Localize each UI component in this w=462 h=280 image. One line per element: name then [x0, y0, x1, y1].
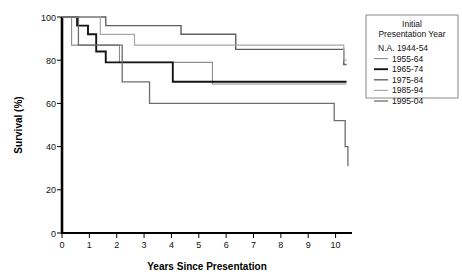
y-tick-label: 100 [41, 13, 56, 23]
x-tick-label: 8 [278, 240, 283, 250]
legend-label-N.A. 1944-54: N.A. 1944-54 [378, 43, 428, 53]
x-tick-label: 0 [59, 240, 64, 250]
km-survival-chart-figure: 020406080100 012345678910 Survival (%) Y… [0, 0, 462, 280]
x-tick-label: 1 [87, 240, 92, 250]
legend-title-line2: Presentation Year [378, 29, 445, 39]
y-tick-label: 80 [46, 56, 56, 66]
x-tick-label: 7 [251, 240, 256, 250]
x-tick-label: 5 [196, 240, 201, 250]
y-tick-label: 20 [46, 185, 56, 195]
y-tick-label: 60 [46, 99, 56, 109]
chart-canvas: 020406080100 012345678910 Survival (%) Y… [0, 0, 462, 280]
y-tick-label: 40 [46, 142, 56, 152]
legend-label-1965-74: 1965-74 [392, 64, 423, 74]
x-tick-label: 4 [169, 240, 174, 250]
y-tick-label: 0 [51, 229, 56, 239]
x-tick-label: 6 [224, 240, 229, 250]
legend-label-1955-64: 1955-64 [392, 54, 423, 64]
x-tick-label: 10 [331, 240, 341, 250]
legend: Initial Presentation Year N.A. 1944-5419… [366, 15, 458, 106]
y-axis-title: Survival (%) [13, 96, 24, 153]
legend-label-1985-94: 1985-94 [392, 85, 423, 95]
legend-label-1995-04: 1995-04 [392, 96, 423, 106]
x-tick-label: 2 [114, 240, 119, 250]
legend-label-1975-84: 1975-84 [392, 75, 423, 85]
x-tick-label: 9 [306, 240, 311, 250]
x-tick-label: 3 [142, 240, 147, 250]
x-axis-title: Years Since Presentation [147, 261, 267, 272]
legend-title-line1: Initial [402, 19, 422, 29]
